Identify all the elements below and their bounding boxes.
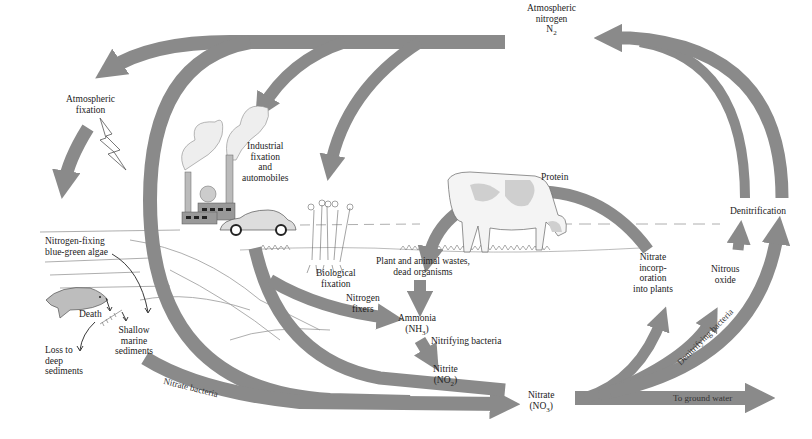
label-line: dead organisms [376, 267, 470, 278]
label-line: Atmospheric [527, 3, 576, 14]
label-industrial-fixation: Industrial fixation and automobiles [242, 141, 288, 183]
label-line: fixation [316, 279, 356, 290]
formula-close: ) [426, 324, 429, 334]
label-line: Nitrate [528, 390, 554, 401]
label-line: Nitrous [711, 264, 740, 275]
label-line: into plants [633, 284, 673, 295]
formula-sub: 2 [553, 29, 557, 37]
formula-main: (NO [434, 375, 451, 385]
label-line: blue-green algae [45, 247, 108, 258]
formula-close: ) [550, 401, 553, 411]
label-line: Atmospheric [66, 94, 115, 105]
label-line: Loss to [45, 345, 83, 356]
label-line: automobiles [242, 173, 288, 184]
label-line: Nitrite [433, 364, 458, 375]
label-nitrous-oxide: Nitrous oxide [711, 264, 740, 285]
label-line: and [242, 162, 288, 173]
fish-skeleton-icon [100, 310, 122, 326]
plants-icon [307, 200, 353, 274]
label-plant-animal-wastes: Plant and animal wastes, dead organisms [376, 256, 470, 277]
label-protein: Protein [541, 172, 568, 183]
label-denitrification: Denitrification [730, 206, 786, 217]
label-nitrifying-bacteria: Nitrifying bacteria [431, 336, 501, 347]
label-blue-green-algae: Nitrogen-fixing blue-green algae [45, 236, 108, 257]
formula-main: (NH [405, 324, 422, 334]
label-atmospheric-nitrogen: Atmospheric nitrogen N2 [527, 3, 576, 38]
label-line: Nitrogen [346, 293, 380, 304]
label-death: Death [79, 309, 102, 320]
label-line: Ammonia [398, 313, 436, 324]
label-line: sediments [115, 346, 153, 357]
cycle-arrows [64, 38, 782, 404]
label-line: marine [115, 336, 153, 347]
label-line: nitrogen [527, 14, 576, 25]
label-line: Nitrate [633, 252, 673, 263]
label-line: Nitrogen-fixing [45, 236, 108, 247]
nitrogen-cycle-diagram: Atmospheric nitrogen N2 Atmospheric fixa… [0, 0, 812, 439]
arrow-to-industrial [262, 42, 345, 108]
label-to-ground-water: To ground water [673, 393, 732, 403]
arrow-to-biological [330, 42, 420, 168]
label-atmospheric-fixation: Atmospheric fixation [66, 94, 115, 115]
label-nitrogen-fixers: Nitrogen fixers [346, 293, 380, 314]
label-line: incorp- [633, 263, 673, 274]
label-nitrite: Nitrite (NO2) [433, 364, 458, 389]
label-ammonia: Ammonia (NH3) [398, 313, 436, 338]
label-line: Plant and animal wastes, [376, 256, 470, 267]
formula-main: (NO [529, 401, 546, 411]
label-line: fixation [242, 152, 288, 163]
label-line: deep [45, 356, 83, 367]
label-line: Biological [316, 268, 356, 279]
label-biological-fixation: Biological fixation [316, 268, 356, 289]
lightning-icon [100, 118, 126, 170]
arrow-atmos-fixation-down [64, 128, 88, 185]
label-line: oration [633, 273, 673, 284]
label-nitrate: Nitrate (NO3) [528, 390, 554, 415]
cow-icon [448, 172, 566, 252]
label-line: Industrial [242, 141, 288, 152]
label-shallow-marine-sediments: Shallow marine sediments [115, 325, 153, 357]
formula-no3: (NO3) [528, 401, 554, 415]
diagram-artwork [0, 0, 812, 439]
label-line: fixers [346, 304, 380, 315]
label-line: Shallow [115, 325, 153, 336]
label-line: sediments [45, 366, 83, 377]
formula-n2: N2 [527, 24, 576, 38]
label-line: oxide [711, 275, 740, 286]
formula-close: ) [454, 375, 457, 385]
label-line: fixation [66, 105, 115, 116]
label-nitrate-incorporation: Nitrate incorp- oration into plants [633, 252, 673, 294]
arrow-nitrous-to-denitrification [738, 232, 740, 250]
formula-no2: (NO2) [433, 375, 458, 389]
label-loss-to-deep-sediments: Loss to deep sediments [45, 345, 83, 377]
